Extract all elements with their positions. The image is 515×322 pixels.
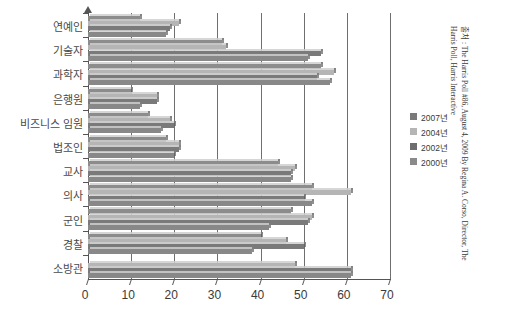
bar-rect (88, 80, 330, 85)
bar-side-face (161, 126, 163, 131)
bar-top-face (90, 140, 181, 142)
y-axis-tick (83, 255, 88, 256)
bar-top-face (90, 30, 168, 32)
category-label: 비즈니스 임원 (20, 115, 83, 131)
bar-top-face (90, 43, 228, 45)
x-axis-label: 50 (286, 288, 316, 302)
bar-side-face (312, 213, 314, 218)
source-note: 출처 : The Harris Poll #86, August 4, 2009… (448, 26, 470, 276)
bar-side-face (174, 151, 176, 156)
bar-top-face (90, 237, 288, 239)
category-label: 소방관 (53, 260, 83, 276)
legend-item: 2004년 (410, 127, 448, 136)
bar-side-face (351, 188, 353, 193)
category-label: 법조인 (53, 139, 83, 155)
bar-top-face (90, 102, 142, 104)
bar-top-face (90, 121, 176, 123)
y-axis-tick (83, 158, 88, 159)
bar-side-face (179, 145, 181, 150)
category-label: 경찰 (63, 236, 83, 252)
bar-top-face (90, 218, 310, 220)
bar-side-face (269, 223, 271, 228)
y-axis-tick (83, 61, 88, 62)
bar-group (88, 37, 510, 61)
bar-group (88, 206, 510, 230)
legend-swatch (410, 158, 417, 165)
bar-side-face (308, 218, 310, 223)
bar-rect (88, 153, 174, 158)
y-axis-tick (83, 206, 88, 207)
bar-side-face (330, 78, 332, 83)
legend-label: 2000년 (421, 156, 448, 168)
bar-top-face (90, 73, 319, 75)
legend-item: 2000년 (410, 157, 448, 166)
bar-side-face (157, 97, 159, 102)
legend-label: 2004년 (421, 126, 448, 138)
x-axis-label: 10 (113, 288, 143, 302)
bar-side-face (308, 54, 310, 59)
bar-top-face (90, 194, 306, 196)
bar-top-face (90, 164, 297, 166)
bar-top-face (90, 68, 336, 70)
bar-top-face (90, 135, 168, 137)
x-axis-label: 0 (70, 288, 100, 302)
bar-group (88, 13, 510, 37)
x-axis-label: 40 (243, 288, 273, 302)
bar-rect (88, 225, 269, 230)
bar-top-face (90, 159, 280, 161)
bar-top-face (90, 183, 314, 185)
bar-top-face (90, 38, 224, 40)
bar-side-face (312, 199, 314, 204)
x-axis-label: 20 (156, 288, 186, 302)
y-axis-tick (83, 182, 88, 183)
x-axis-label: 60 (329, 288, 359, 302)
y-axis-tick (83, 110, 88, 111)
bar-rect (88, 177, 291, 182)
y-axis-tick (83, 86, 88, 87)
bar-top-face (90, 62, 323, 64)
bar-top-face (90, 151, 176, 153)
y-axis-tick (83, 37, 88, 38)
bar-top-face (90, 169, 293, 171)
y-axis-tick (83, 231, 88, 232)
bar-side-face (291, 175, 293, 180)
bar-top-face (90, 78, 332, 80)
bar-top-face (90, 24, 172, 26)
plot-area (88, 13, 390, 279)
bar-rect (88, 273, 351, 278)
bar-side-face (170, 24, 172, 29)
bar-group (88, 61, 510, 85)
bar-top-face (90, 199, 314, 201)
category-label: 은행원 (53, 91, 83, 107)
bar-group (88, 182, 510, 206)
bar-top-face (90, 92, 159, 94)
bar-side-face (140, 102, 142, 107)
bar-top-face (90, 266, 353, 268)
bar-top-face (90, 116, 172, 118)
bar-side-face (174, 121, 176, 126)
bar-group (88, 231, 510, 255)
bar-rect (88, 104, 140, 109)
legend-swatch (410, 143, 417, 150)
bar-top-face (90, 232, 263, 234)
bar-side-face (295, 164, 297, 169)
bar-group (88, 255, 510, 279)
bar-rect (88, 32, 166, 37)
bar-rect (88, 128, 161, 133)
bar-side-face (179, 19, 181, 24)
bar-side-face (304, 242, 306, 247)
bar-side-face (351, 271, 353, 276)
bar-top-face (90, 49, 323, 51)
x-axis-label: 30 (199, 288, 229, 302)
bar-top-face (90, 213, 314, 215)
legend: 2007년2004년2002년2000년 (410, 112, 448, 172)
bar-top-face (90, 247, 254, 249)
legend-item: 2007년 (410, 112, 448, 121)
x-tick-mark (388, 279, 391, 285)
y-axis-arrow-icon (84, 6, 92, 13)
bar-top-face (90, 19, 181, 21)
bar-top-face (90, 111, 150, 113)
bar-top-face (90, 126, 163, 128)
y-axis-tick (83, 13, 88, 14)
bar-top-face (90, 261, 297, 263)
